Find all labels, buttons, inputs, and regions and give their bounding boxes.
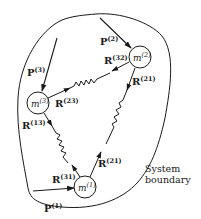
force-p1-label: P(1) [44, 202, 62, 214]
particle-system-diagram: m(2) m(3) m(1) P(2) P(3) P(1) R(32) R(23… [0, 0, 201, 219]
force-r21-upper-label: R(21) [132, 75, 156, 87]
force-r13-label: R(13) [22, 119, 46, 131]
spring-3-1 [44, 113, 80, 177]
boundary-label-line2: boundary [145, 174, 191, 185]
force-r23-label: R(23) [55, 97, 79, 109]
force-r21-lower-label: R(21) [98, 157, 122, 169]
spring-3-2 [48, 62, 129, 98]
force-p3-arrow [42, 38, 57, 91]
force-p3-label: P(3) [27, 66, 45, 78]
boundary-label-line1: System [145, 163, 180, 174]
force-r31-label: R(31) [52, 173, 76, 185]
force-p1-arrow [33, 188, 74, 191]
force-p2-label: P(2) [100, 35, 118, 47]
